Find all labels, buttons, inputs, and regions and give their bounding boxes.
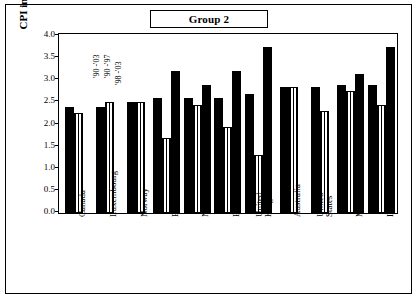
y-axis-tick-label: 0.5 <box>31 185 55 193</box>
x-axis-tick-label: Australia <box>292 147 302 217</box>
x-axis-tick-label: Canada <box>77 147 87 217</box>
x-axis-tick-label: Malta <box>354 147 364 217</box>
series-annotation: '90 -'97 <box>103 54 112 78</box>
y-axis-tick-label: 2.5 <box>31 96 55 104</box>
bar <box>65 107 74 213</box>
y-axis-tick-label: 4.0 <box>31 30 55 38</box>
x-axis-tick-label: ECCB <box>170 147 180 217</box>
y-axis-tick-mark <box>55 123 59 124</box>
x-axis-tick-label: Ireland <box>385 147 395 217</box>
chart-title: Group 2 <box>189 13 230 25</box>
bar <box>280 87 289 213</box>
y-axis-tick-mark <box>55 145 59 146</box>
chart-title-box: Group 2 <box>150 10 268 28</box>
x-axis-tick-label-line: Kingdom <box>264 147 273 217</box>
bar <box>96 107 105 213</box>
x-axis-tick-label: Luxembourg <box>108 147 118 217</box>
x-axis-tick-label-line: States <box>325 147 334 217</box>
bar <box>184 98 193 213</box>
y-axis-tick-mark <box>55 56 59 57</box>
series-annotation: '98 -'03 <box>114 61 123 85</box>
x-axis-tick-label: Bahamas <box>231 147 241 217</box>
y-axis-tick-mark <box>55 78 59 79</box>
chart-screenshot: Group 2 CPI in percent 4.03.53.02.52.01.… <box>0 0 418 299</box>
y-axis-tick-label: 1.0 <box>31 163 55 171</box>
bar <box>214 98 223 213</box>
x-axis-tick-label: Netherlands <box>200 147 210 217</box>
x-axis-tick-label: Norway <box>139 147 149 217</box>
series-annotation: '90 -'03 <box>92 54 101 78</box>
bar <box>245 94 254 213</box>
bar <box>153 98 162 213</box>
y-axis-tick-mark <box>55 100 59 101</box>
y-axis-label: CPI in percent <box>17 0 29 60</box>
y-axis-tick-label: 0.0 <box>31 207 55 215</box>
y-axis-tick-mark <box>55 189 59 190</box>
x-axis-tick-label: UnitedKingdom <box>255 147 273 217</box>
y-axis-tick-mark <box>55 34 59 35</box>
y-axis-tick-label: 2.0 <box>31 119 55 127</box>
y-axis-tick-mark <box>55 167 59 168</box>
y-axis-tick-label: 3.5 <box>31 52 55 60</box>
y-axis-tick-mark <box>55 211 59 212</box>
bar <box>368 85 377 213</box>
y-axis-tick-label: 3.0 <box>31 74 55 82</box>
bar <box>127 102 136 213</box>
x-axis-tick-label: UnitedStates <box>316 147 334 217</box>
bar <box>337 85 346 213</box>
y-axis-tick-label: 1.5 <box>31 141 55 149</box>
